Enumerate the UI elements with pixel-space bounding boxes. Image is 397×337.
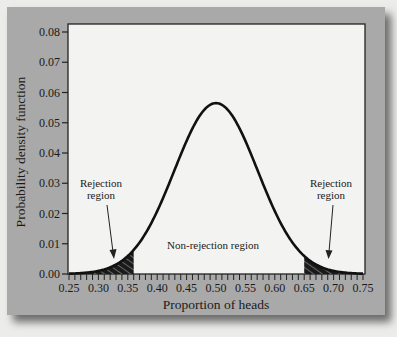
x-tick-label: 0.25 bbox=[59, 281, 80, 295]
x-axis: 0.250.300.350.400.450.500.550.600.650.70… bbox=[59, 274, 374, 295]
x-tick-label: 0.45 bbox=[176, 281, 197, 295]
plot-area bbox=[68, 24, 365, 274]
x-tick-label: 0.60 bbox=[264, 281, 285, 295]
y-tick-label: 0.04 bbox=[39, 146, 60, 160]
y-tick-label: 0.02 bbox=[39, 207, 60, 221]
x-tick-label: 0.40 bbox=[147, 281, 168, 295]
right-rejection-label: Rejection bbox=[310, 177, 353, 189]
x-tick-label: 0.75 bbox=[353, 281, 374, 295]
x-tick-label: 0.70 bbox=[323, 281, 344, 295]
x-tick-label: 0.50 bbox=[206, 281, 227, 295]
y-tick-label: 0.08 bbox=[39, 25, 60, 39]
left-rejection-label-2: region bbox=[87, 189, 116, 201]
y-tick-label: 0.00 bbox=[39, 267, 60, 281]
x-tick-label: 0.55 bbox=[235, 281, 256, 295]
non-rejection-label: Non-rejection region bbox=[167, 239, 259, 251]
y-axis-title: Probability density function bbox=[13, 76, 28, 227]
chart: 0.000.010.020.030.040.050.060.070.08 0.2… bbox=[0, 0, 397, 337]
x-axis-title: Proportion of heads bbox=[163, 297, 269, 312]
x-tick-label: 0.35 bbox=[117, 281, 138, 295]
y-tick-label: 0.01 bbox=[39, 237, 60, 251]
right-rejection-label-2: region bbox=[317, 189, 346, 201]
y-tick-label: 0.06 bbox=[39, 86, 60, 100]
y-tick-label: 0.03 bbox=[39, 176, 60, 190]
x-tick-label: 0.30 bbox=[88, 281, 109, 295]
y-tick-label: 0.07 bbox=[39, 55, 60, 69]
y-axis: 0.000.010.020.030.040.050.060.070.08 bbox=[39, 25, 68, 281]
y-tick-label: 0.05 bbox=[39, 116, 60, 130]
left-rejection-label: Rejection bbox=[80, 177, 123, 189]
x-tick-label: 0.65 bbox=[294, 281, 315, 295]
